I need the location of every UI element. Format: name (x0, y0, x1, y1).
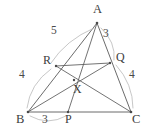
vertex-dot-B (27, 111, 30, 114)
vertex-label-B: B (16, 113, 24, 126)
segment-AB (28, 23, 97, 112)
point-dot-Q (109, 62, 111, 64)
point-label-R: R (43, 54, 51, 66)
point-label-Q: Q (116, 51, 125, 63)
point-dot-X (73, 79, 75, 81)
arc-BR (27, 69, 51, 108)
point-dot-R (55, 65, 57, 67)
vertex-label-C: C (132, 113, 140, 126)
arc-BP (30, 116, 66, 121)
geometry-figure: A B C R Q P X 5 3 4 4 3 (0, 0, 149, 140)
point-label-X: X (73, 83, 82, 95)
length-label-BR: 4 (19, 69, 25, 81)
length-label-QC: 4 (129, 69, 135, 81)
length-label-BP: 3 (42, 114, 48, 126)
cevian-AP (68, 23, 97, 112)
point-label-P: P (65, 113, 72, 125)
length-label-AQ: 3 (103, 28, 109, 40)
arc-AR (51, 28, 94, 63)
cevian-BQ (28, 63, 110, 112)
length-label-AR: 5 (51, 25, 57, 37)
vertex-label-A: A (93, 3, 102, 16)
vertex-dot-A (96, 22, 99, 25)
